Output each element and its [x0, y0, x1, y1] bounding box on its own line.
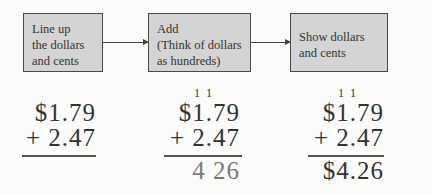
addend-bottom: + 2.47 [314, 125, 384, 151]
sum-rule [22, 155, 96, 157]
sum-result: $4.26 [323, 158, 384, 184]
step-text: (Think of dollars [157, 37, 242, 53]
addend-top: $1.79 [35, 100, 96, 126]
step-text: Line up [32, 21, 94, 37]
addend-bottom: + 2.47 [26, 125, 96, 151]
step-box-line-up: Line up the dollars and cents [23, 13, 103, 72]
carry-digits: 1 1 [338, 87, 356, 99]
addend-top: $1.79 [179, 100, 240, 126]
step-text: and cents [299, 45, 379, 61]
addend-bottom: + 2.47 [170, 125, 240, 151]
step-text: the dollars [32, 37, 94, 53]
step-text: Show dollars [299, 29, 379, 45]
arrow-icon [103, 42, 148, 43]
carry-digits: 1 1 [194, 87, 212, 99]
step-text: and cents [32, 53, 94, 69]
step-text: Add [157, 21, 242, 37]
step-text: as hundreds) [157, 53, 242, 69]
sum-result: 4 26 [192, 158, 240, 184]
addend-top: $1.79 [323, 100, 384, 126]
step-box-show: Show dollars and cents [290, 13, 388, 72]
step-box-add: Add (Think of dollars as hundreds) [148, 13, 251, 72]
arrow-icon [251, 42, 290, 43]
